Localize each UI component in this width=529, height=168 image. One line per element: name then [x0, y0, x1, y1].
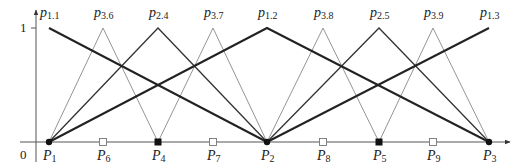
open-square-icon [100, 139, 107, 146]
label-p1-3: p1.3 [479, 5, 500, 21]
node-dot-icon [264, 139, 270, 145]
label-p3-9: p3.9 [423, 5, 444, 21]
node-label-p1: P1 [42, 148, 57, 164]
node-label-p5: P5 [372, 148, 387, 164]
filled-square-icon [155, 139, 162, 146]
node-dot-icon [46, 139, 52, 145]
label-p1-2: p1.2 [257, 5, 278, 21]
y-tick-label: 1 [20, 20, 27, 35]
node-label-p7: P7 [206, 148, 221, 164]
node-label-p6: P6 [96, 148, 111, 164]
label-p1-1: p1.1 [39, 5, 60, 21]
hat-function-diagram: 1 0 p1.1p3.6p2.4p3.7p1.2p3.8p2.5p3.9p1.3… [0, 0, 529, 168]
label-p2-5: p2.5 [369, 5, 390, 21]
basis-function-p1-2 [49, 28, 489, 142]
open-square-icon [210, 139, 217, 146]
label-p2-4: p2.4 [148, 5, 169, 21]
basis-functions [49, 28, 489, 142]
label-p3-8: p3.8 [313, 5, 334, 21]
node-label-p3: P3 [482, 148, 497, 164]
open-square-icon [320, 139, 327, 146]
label-p3-6: p3.6 [93, 5, 114, 21]
node-label-p4: P4 [151, 148, 166, 164]
open-square-icon [430, 139, 437, 146]
node-label-p8: P8 [316, 148, 331, 164]
label-p3-7: p3.7 [203, 5, 224, 21]
node-label-p2: P2 [260, 148, 275, 164]
node-label-p9: P9 [426, 148, 441, 164]
node-dot-icon [486, 139, 492, 145]
filled-square-icon [376, 139, 383, 146]
origin-label: 0 [20, 147, 27, 162]
